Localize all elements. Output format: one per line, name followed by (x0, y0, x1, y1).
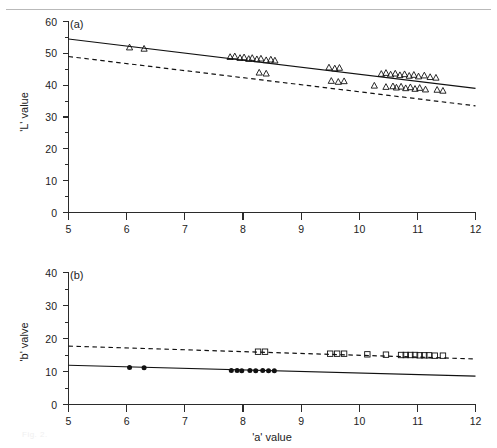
data-point-triangle (241, 54, 247, 60)
data-point-triangle (336, 65, 342, 71)
panel-a-ytick-60: 60 (45, 16, 57, 28)
data-point-triangle (328, 78, 334, 84)
data-point-circle (142, 365, 147, 370)
data-point-triangle (341, 78, 347, 84)
data-point-circle (229, 368, 234, 373)
data-point-square (341, 351, 346, 356)
data-point-triangle (335, 79, 341, 85)
regression-line (69, 39, 476, 88)
panel-b-ytick-30: 30 (45, 300, 57, 312)
data-point-triangle (440, 87, 446, 93)
figure-plot-area: (a) 'L' value (0, 0, 497, 448)
panel-b-xtick-11: 11 (412, 415, 423, 427)
data-point-square (327, 351, 332, 356)
data-point-triangle (256, 69, 262, 75)
panel-a-x-tick-labels: 5 6 7 8 9 10 11 12 (66, 223, 482, 235)
panel-b-y-tick-labels: 40 30 20 10 0 (45, 267, 57, 411)
data-point-triangle (398, 83, 404, 89)
data-point-circle (272, 368, 277, 373)
panel-b-ytick-0: 0 (51, 399, 57, 411)
panel-a-ytick-0: 0 (51, 207, 57, 219)
panel-a-xtick-8: 8 (240, 223, 246, 235)
panel-b-xtick-9: 9 (298, 415, 304, 427)
panel-a-regression-line-solid (69, 39, 476, 88)
data-point-triangle (383, 84, 389, 90)
panel-a-tag: (a) (70, 18, 83, 30)
panel-a-data-points-upper (126, 44, 439, 80)
data-point-square (365, 352, 370, 357)
data-point-triangle (427, 74, 433, 80)
data-point-triangle (326, 64, 332, 70)
data-point-triangle (411, 72, 417, 78)
data-point-triangle (392, 70, 398, 76)
panel-a-xtick-7: 7 (182, 223, 188, 235)
panel-a-xtick-5: 5 (66, 223, 72, 235)
panel-a-y-tick-labels: 60 50 40 30 20 10 0 (45, 16, 57, 219)
panel-b-x-ticks (69, 405, 476, 412)
data-point-triangle (371, 82, 377, 88)
data-point-triangle (421, 72, 427, 78)
figure-caption-faint: Fig. 2. (22, 430, 48, 439)
panel-a-ytick-30: 30 (45, 111, 57, 123)
data-point-circle (235, 368, 240, 373)
shared-x-axis-title: 'a' value (252, 431, 292, 443)
panel-b-xtick-12: 12 (470, 415, 482, 427)
panel-b-x-tick-labels: 5 6 7 8 9 10 11 12 (66, 415, 482, 427)
panel-b-ytick-40: 40 (45, 267, 57, 279)
data-point-circle (266, 368, 271, 373)
page-top-rule (6, 9, 491, 10)
panel-b-xtick-6: 6 (124, 415, 130, 427)
data-point-circle (260, 368, 265, 373)
data-point-triangle (433, 74, 439, 80)
panel-a-xtick-12: 12 (470, 223, 482, 235)
panel-b-xtick-8: 8 (240, 415, 246, 427)
figure-root: Fig. 2. (a) 'L' value (0, 0, 497, 448)
panel-b-ytick-10: 10 (45, 366, 57, 378)
data-point-square (334, 351, 339, 356)
data-point-circle (253, 368, 258, 373)
data-point-circle (247, 368, 252, 373)
data-point-triangle (383, 70, 389, 76)
data-point-triangle (258, 55, 264, 61)
data-point-circle (239, 368, 244, 373)
data-point-triangle (422, 86, 428, 92)
panel-b-data-points-upper (255, 349, 445, 358)
panel-a-xtick-10: 10 (354, 223, 366, 235)
panel-a: (a) 'L' value (18, 16, 481, 236)
panel-b-xtick-10: 10 (354, 415, 366, 427)
panel-b-xtick-5: 5 (66, 415, 72, 427)
panel-b-y-axis-title: 'b' valve (18, 322, 30, 361)
panel-b-y-ticks (63, 273, 69, 405)
panel-a-ytick-20: 20 (45, 143, 57, 155)
data-point-triangle (417, 85, 423, 91)
panel-b-xtick-7: 7 (182, 415, 188, 427)
panel-a-y-ticks (63, 22, 69, 213)
panel-a-x-ticks (69, 213, 476, 220)
panel-a-xtick-6: 6 (124, 223, 130, 235)
data-point-triangle (434, 87, 440, 93)
data-point-triangle (263, 70, 269, 76)
panel-a-xtick-9: 9 (298, 223, 304, 235)
panel-a-ytick-10: 10 (45, 175, 57, 187)
panel-b-axes (69, 273, 476, 405)
panel-a-ytick-40: 40 (45, 79, 57, 91)
panel-b-ytick-20: 20 (45, 333, 57, 345)
panel-a-xtick-11: 11 (412, 223, 423, 235)
panel-b: (b) 'b' valve 40 30 20 (18, 267, 481, 444)
panel-a-y-axis-title: 'L' value (18, 92, 30, 132)
data-point-circle (127, 365, 132, 370)
data-point-triangle (407, 84, 413, 90)
data-point-triangle (401, 71, 407, 77)
panel-a-ytick-50: 50 (45, 47, 57, 59)
panel-b-tag: (b) (70, 269, 83, 281)
data-point-triangle (232, 53, 238, 59)
